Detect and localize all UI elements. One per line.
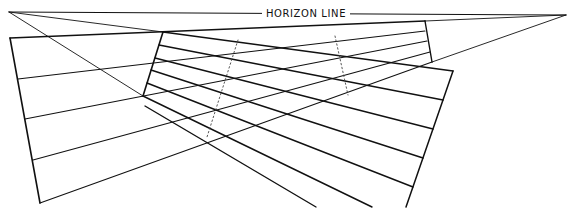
construction-line [425, 15, 566, 21]
perspective-diagram: HORIZON LINE [0, 0, 571, 216]
right-plane-row-line [151, 70, 423, 158]
left-plane-top-edge [10, 21, 425, 38]
right-plane-row-line [155, 58, 433, 129]
right-plane-row-line [143, 96, 372, 207]
right-plane-row-line [163, 32, 453, 71]
construction-line [9, 12, 143, 96]
left-plane-row-line [18, 31, 425, 79]
construction-line [9, 12, 163, 32]
diagram-lines [9, 12, 566, 207]
horizon-line-label: HORIZON LINE [266, 8, 346, 19]
left-plane-row-line [40, 62, 432, 203]
right-plane-row-line [159, 45, 443, 100]
left-plane-left-edge [10, 38, 40, 203]
right-plane-row-line [147, 83, 413, 187]
construction-line [432, 15, 566, 62]
dotted-guide-line [335, 36, 348, 95]
